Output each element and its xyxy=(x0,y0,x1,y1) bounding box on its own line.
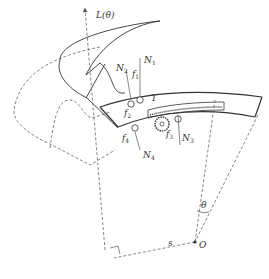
ghost-link-outline xyxy=(14,47,115,165)
theta-arc xyxy=(197,211,209,213)
axis-L-line xyxy=(85,10,105,250)
axis-L-label: L(θ) xyxy=(95,10,115,20)
label-N3: N3 xyxy=(181,133,194,144)
diagram-canvas: L(θ) N1 N2 N3 N4 f1 f2 f3 f4 T xyxy=(0,0,269,279)
wheel-4 xyxy=(132,125,138,131)
label-f3: f3 xyxy=(165,129,173,140)
right-angle-marker xyxy=(110,246,120,254)
label-theta: θ xyxy=(201,200,207,210)
label-O: O xyxy=(199,240,207,250)
label-N4: N4 xyxy=(142,150,155,161)
label-T: T xyxy=(151,93,158,103)
label-f1: f1 xyxy=(131,69,139,80)
label-s: s xyxy=(168,238,173,248)
radial-lines xyxy=(114,100,258,258)
wheel-2 xyxy=(128,101,134,107)
pivot-O xyxy=(193,240,196,243)
label-N1: N1 xyxy=(143,55,156,66)
label-f2: f2 xyxy=(123,108,131,119)
label-N2: N2 xyxy=(115,63,128,74)
link-body xyxy=(59,21,160,128)
label-f4: f4 xyxy=(121,133,129,144)
wheel-1 xyxy=(137,97,143,103)
